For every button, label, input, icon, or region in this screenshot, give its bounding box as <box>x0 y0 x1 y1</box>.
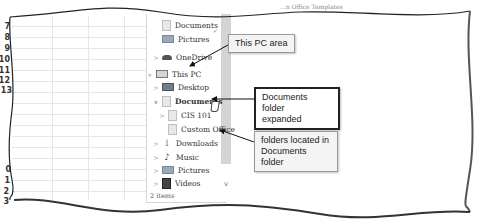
nav-item-music[interactable]: > ♪ Music <box>152 150 199 164</box>
grid-row-line <box>12 81 148 82</box>
chevron-down-icon[interactable]: v <box>152 98 160 105</box>
grid-row-line <box>12 158 148 159</box>
nav-item-cis-101[interactable]: > CIS 101 <box>158 108 212 122</box>
row-number: 12 <box>0 76 10 86</box>
row-number: 7 <box>0 22 10 32</box>
nav-item-downloads[interactable]: > ↓ Downloads <box>152 136 218 150</box>
grid-row-line <box>12 191 148 192</box>
nav-item-videos[interactable]: > Videos <box>152 176 200 190</box>
callout-documents-expanded: Documents folder expanded <box>254 87 340 130</box>
grid-row-line <box>12 114 148 115</box>
nav-item-label: Downloads <box>176 139 218 148</box>
folder-icon <box>162 20 171 31</box>
screenshot-frame: ...n Office Templates 7 8 9 10 11 12 13 … <box>0 0 478 224</box>
nav-item-onedrive[interactable]: > OneDrive <box>152 50 212 64</box>
computer-icon <box>156 70 168 78</box>
pin-icon: ✓ <box>213 27 218 34</box>
pictures-icon <box>162 35 174 43</box>
callout-folders-in-documents: folders located in Documents folder <box>254 131 338 172</box>
onedrive-cloud-icon <box>162 55 172 60</box>
grid-column-line <box>52 16 53 200</box>
callout-text: folders located in <box>261 135 331 146</box>
chevron-right-icon[interactable]: > <box>152 54 160 61</box>
grid-row-line <box>12 180 148 181</box>
grid-row-line <box>12 125 148 126</box>
nav-item-label: This PC <box>172 70 201 79</box>
grid-row-line <box>12 70 148 71</box>
row-number: 3 <box>0 197 9 207</box>
callout-text: Documents folder <box>261 146 331 168</box>
nav-item-label: Videos <box>175 179 200 188</box>
folder-icon <box>168 110 177 121</box>
chevron-right-icon[interactable]: > <box>158 112 166 119</box>
callout-text: This PC area <box>235 38 288 48</box>
nav-item-label: Music <box>176 153 199 162</box>
nav-item-label: Pictures <box>178 166 209 175</box>
documents-folder-icon <box>162 96 171 107</box>
row-number: 2 <box>0 187 9 197</box>
callout-text: expanded <box>262 114 332 125</box>
nav-item-label: Desktop <box>178 83 209 92</box>
chevron-down-icon[interactable]: v <box>146 71 154 78</box>
nav-item-quick-documents[interactable]: Documents <box>152 18 218 32</box>
nav-item-quick-pictures[interactable]: Pictures <box>152 32 209 46</box>
grid-row-line <box>12 37 148 38</box>
status-item-count: 2 items <box>150 192 174 200</box>
download-icon: ↓ <box>162 139 172 147</box>
scroll-down-arrow-icon[interactable]: v <box>224 180 228 188</box>
callout-text: Documents folder <box>262 92 332 114</box>
grid-row-line <box>12 48 148 49</box>
grid-row-line <box>12 59 148 60</box>
nav-item-label: OneDrive <box>176 53 212 62</box>
row-number: 11 <box>0 66 10 76</box>
music-icon: ♪ <box>162 153 172 161</box>
videos-icon <box>162 178 171 189</box>
grid-row-line <box>12 26 148 27</box>
grid-column-line <box>124 16 125 200</box>
grid-column-line <box>88 16 89 200</box>
nav-item-label: Documents <box>175 21 218 30</box>
grid-row-line <box>12 147 148 148</box>
chevron-right-icon[interactable]: > <box>152 154 160 161</box>
chevron-right-icon[interactable]: > <box>152 167 160 174</box>
row-number: 9 <box>0 44 10 54</box>
row-number: 13 <box>0 86 12 96</box>
row-number: 0 <box>0 165 11 175</box>
row-number: 10 <box>0 55 10 65</box>
row-number: 1 <box>0 176 10 186</box>
row-number: 8 <box>0 33 10 43</box>
desktop-icon <box>162 83 174 91</box>
nav-item-pictures[interactable]: > Pictures <box>152 163 209 177</box>
chevron-right-icon[interactable]: > <box>152 84 160 91</box>
spreadsheet-grid <box>12 16 148 200</box>
grid-row-line <box>12 92 148 93</box>
nav-item-desktop[interactable]: > Desktop <box>152 80 209 94</box>
callout-this-pc-area: This PC area <box>228 34 295 53</box>
background-window-title: ...n Office Templates <box>280 3 343 10</box>
nav-item-custom-office[interactable]: Custom Office <box>158 122 235 136</box>
folder-icon <box>168 124 177 135</box>
nav-item-label: Custom Office <box>181 125 235 134</box>
grid-row-line <box>12 103 148 104</box>
nav-item-this-pc[interactable]: v This PC <box>146 67 201 81</box>
pictures-icon <box>162 166 174 174</box>
chevron-right-icon[interactable]: > <box>152 140 160 147</box>
grid-row-line <box>12 169 148 170</box>
nav-item-label: Pictures <box>178 35 209 44</box>
chevron-right-icon[interactable]: > <box>152 180 160 187</box>
nav-item-label: CIS 101 <box>181 111 212 120</box>
grid-row-line <box>12 136 148 137</box>
